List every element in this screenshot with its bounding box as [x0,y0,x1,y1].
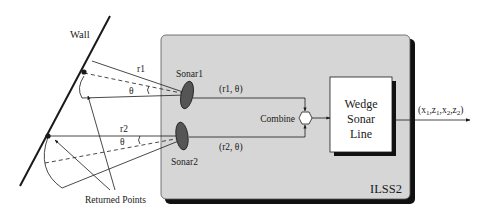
sonar2-output-label: (r2, θ) [219,142,243,153]
system-box-label: ILSS2 [370,182,402,196]
returned-points-label: Returned Points [85,195,146,205]
beam2-range-label: r2 [120,124,128,134]
sonar-system-diagram: ILSS2 Wall r1 θ r2 θ [0,0,489,224]
sonar1-output-label: (r1, θ) [219,84,243,95]
combine-hexagon [299,112,312,124]
returned-points-callout: Returned Points [55,96,146,205]
process-box-line-2: Sonar [347,112,375,126]
sonar2-label: Sonar2 [171,157,198,167]
output-part-2: ,z [429,105,436,115]
beam1-range-label: r1 [137,64,145,74]
wall: Wall [20,16,110,186]
process-box-line-3: Line [350,127,372,141]
sonar1-label: Sonar1 [176,69,203,79]
wall-label: Wall [70,29,90,40]
process-box-line-1: Wedge [344,97,377,111]
wall-line [20,16,110,186]
combine-label: Combine [260,114,295,124]
output-part-4: ,z [450,105,457,115]
output-suffix: ) [460,105,463,116]
wedge-sonar-line-box: Wedge Sonar Line [330,77,396,156]
output-label: (x1,z1,x2,z2) [418,105,463,117]
returned-point-1 [81,69,86,74]
beam1-angle-label: θ [129,86,134,96]
returned-point-2 [45,133,50,138]
beam2-angle-label: θ [120,137,125,147]
